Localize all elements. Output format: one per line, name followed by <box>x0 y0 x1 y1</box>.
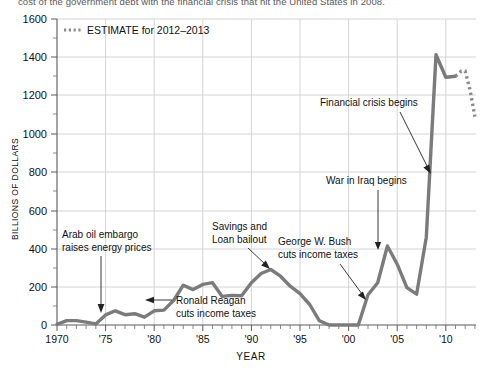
annotation-war-in-iraq-line1: War in Iraq begins <box>326 175 407 186</box>
annotation-george-w-bush-arrowhead <box>358 291 366 300</box>
x-axis-title: YEAR <box>236 351 266 362</box>
x-tick-95: '95 <box>293 333 307 345</box>
annotation-savings-loan-line1: Savings and <box>212 221 267 232</box>
x-axis-tick-labels: 1970 '75 '80 '85 '90 '95 '00 '05 '10 <box>45 333 452 345</box>
annotation-financial-crisis-line1: Financial crisis begins <box>320 97 418 108</box>
annotation-financial-crisis-leader <box>400 112 427 166</box>
x-tick-00: '00 <box>342 333 356 345</box>
x-tick-85: '85 <box>196 333 210 345</box>
y-tick-1600: 1600 <box>23 13 47 25</box>
annotation-arab-oil-embargo-line2: raises energy prices <box>62 242 151 253</box>
x-axis-tickmarks <box>57 325 475 331</box>
y-tick-400: 400 <box>29 243 47 255</box>
deficit-line-chart: 1600 1400 1200 1000 800 600 400 200 0 BI… <box>0 0 486 369</box>
x-tick-75: '75 <box>99 333 113 345</box>
x-tick-1970: 1970 <box>45 333 69 345</box>
y-axis-tickmarks <box>51 19 57 325</box>
annotation-ronald-reagan: Ronald Reagan cuts income taxes <box>145 295 256 319</box>
y-tick-1200: 1200 <box>23 89 47 101</box>
y-tick-800: 800 <box>29 166 47 178</box>
x-tick-10: '10 <box>439 333 453 345</box>
annotation-arab-oil-embargo: Arab oil embargo raises energy prices <box>62 229 151 313</box>
annotation-savings-loan-leader <box>248 248 265 264</box>
estimate-data-line <box>456 71 475 116</box>
y-axis-tick-labels: 1600 1400 1200 1000 800 600 400 200 0 <box>23 13 47 331</box>
x-tick-80: '80 <box>147 333 161 345</box>
annotation-arab-oil-embargo-arrowhead <box>98 304 105 313</box>
annotation-savings-loan-bailout: Savings and Loan bailout <box>212 221 270 269</box>
legend-label-estimate: ESTIMATE for 2012–2013 <box>87 24 210 36</box>
annotation-george-w-bush-line1: George W. Bush <box>278 236 351 247</box>
y-tick-0: 0 <box>41 319 47 331</box>
annotation-george-w-bush-line2: cuts income taxes <box>278 249 358 260</box>
annotation-savings-loan-line2: Loan bailout <box>212 234 267 245</box>
legend: ESTIMATE for 2012–2013 <box>64 24 210 36</box>
annotation-financial-crisis: Financial crisis begins <box>320 97 431 174</box>
annotation-ronald-reagan-line1: Ronald Reagan <box>176 295 246 306</box>
annotation-george-w-bush-leader <box>340 264 362 294</box>
annotation-ronald-reagan-arrowhead <box>145 297 154 303</box>
annotation-arab-oil-embargo-line1: Arab oil embargo <box>62 229 139 240</box>
annotation-george-w-bush: George W. Bush cuts income taxes <box>278 236 366 300</box>
x-tick-05: '05 <box>390 333 404 345</box>
chart-root: cost of the government debt with the fin… <box>0 0 486 369</box>
annotation-ronald-reagan-line2: cuts income taxes <box>176 308 256 319</box>
y-tick-200: 200 <box>29 281 47 293</box>
y-tick-600: 600 <box>29 205 47 217</box>
y-axis-title: BILLIONS OF DOLLARS <box>10 138 20 240</box>
x-tick-90: '90 <box>245 333 259 345</box>
y-tick-1000: 1000 <box>23 128 47 140</box>
y-tick-1400: 1400 <box>23 51 47 63</box>
